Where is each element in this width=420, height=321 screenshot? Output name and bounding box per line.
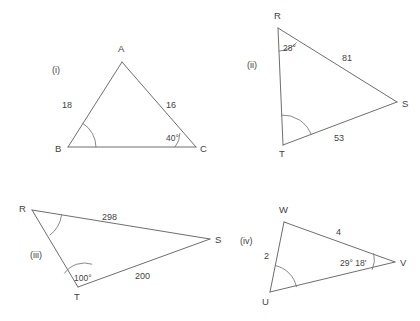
side-label-WV: 4	[336, 227, 341, 237]
item-label-iv: (iv)	[240, 236, 253, 246]
side-UV-line	[270, 262, 395, 292]
vertex-label-U: U	[262, 296, 269, 307]
figure-sheet: (i) A B C 18 16 40° (ii) R S T 81 53 28°	[0, 0, 420, 321]
vertex-label-V: V	[400, 257, 407, 268]
angle-U-arc	[275, 266, 296, 287]
side-WU-line	[270, 222, 284, 292]
figure-iv: (iv) W U V 4 2 29° 18'	[0, 0, 420, 321]
side-label-WU: 2	[264, 251, 269, 261]
angle-label-V: 29° 18'	[340, 258, 367, 268]
vertex-label-W: W	[279, 204, 288, 215]
